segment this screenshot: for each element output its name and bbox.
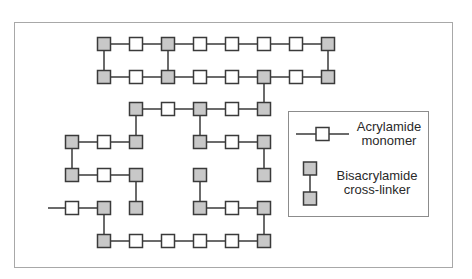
bisacrylamide-node: [98, 71, 111, 84]
acrylamide-node: [194, 71, 207, 84]
bisacrylamide-node: [130, 202, 143, 215]
crosslinker-label-line1: Bisacrylamide: [325, 169, 429, 183]
acrylamide-node: [226, 103, 239, 116]
bisacrylamide-node: [130, 103, 143, 116]
bisacrylamide-node: [194, 136, 207, 149]
acrylamide-node: [290, 38, 303, 51]
crosslinker-legend-label: Bisacrylamide cross-linker: [325, 169, 429, 197]
monomer-label-line1: Acrylamide: [349, 120, 429, 134]
acrylamide-node: [226, 71, 239, 84]
bisacrylamide-node: [258, 103, 271, 116]
acrylamide-node: [226, 38, 239, 51]
bisacrylamide-node: [258, 136, 271, 149]
crosslinker-label-line2: cross-linker: [325, 183, 429, 197]
acrylamide-node: [98, 136, 111, 149]
acrylamide-node: [226, 136, 239, 149]
acrylamide-node: [130, 71, 143, 84]
acrylamide-node: [162, 103, 175, 116]
bisacrylamide-node: [130, 169, 143, 182]
crosslinker-legend-icon: [304, 162, 317, 205]
bisacrylamide-node: [66, 169, 79, 182]
bisacrylamide-node: [258, 235, 271, 248]
acrylamide-node: [66, 202, 79, 215]
acrylamide-node: [290, 71, 303, 84]
monomer-label-line2: monomer: [349, 134, 429, 148]
bisacrylamide-node: [162, 71, 175, 84]
bisacrylamide-node: [66, 136, 79, 149]
acrylamide-node: [258, 38, 271, 51]
bisacrylamide-node: [194, 169, 207, 182]
legend: Acrylamide monomer Bisacrylamide cross-l…: [288, 111, 429, 217]
bisacrylamide-node: [258, 71, 271, 84]
bisacrylamide-node: [258, 202, 271, 215]
monomer-legend-icon: [296, 128, 349, 141]
bisacrylamide-node: [194, 103, 207, 116]
bisacrylamide-node: [258, 169, 271, 182]
acrylamide-node: [226, 235, 239, 248]
acrylamide-node: [130, 38, 143, 51]
bisacrylamide-node: [322, 71, 335, 84]
bisacrylamide-node: [130, 136, 143, 149]
acrylamide-node: [130, 235, 143, 248]
monomer-legend-label: Acrylamide monomer: [349, 120, 429, 148]
acrylamide-node: [194, 38, 207, 51]
acrylamide-node: [98, 169, 111, 182]
acrylamide-node: [226, 202, 239, 215]
acrylamide-node: [162, 235, 175, 248]
acrylamide-node: [194, 235, 207, 248]
bisacrylamide-node: [322, 38, 335, 51]
bisacrylamide-node: [98, 202, 111, 215]
bisacrylamide-node: [194, 202, 207, 215]
bisacrylamide-node: [162, 38, 175, 51]
bisacrylamide-node: [98, 235, 111, 248]
bisacrylamide-node: [98, 38, 111, 51]
